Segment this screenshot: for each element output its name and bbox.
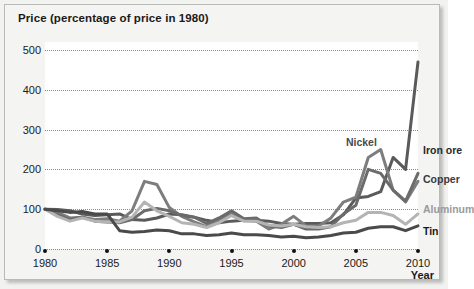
y-tick-0: 0 [1, 243, 41, 255]
y-tick-300: 300 [1, 124, 41, 136]
series-label-copper: Copper [423, 173, 460, 185]
chart-title: Price (percentage of price in 1980) [18, 12, 209, 24]
y-tick-100: 100 [1, 203, 41, 215]
x-tick-1995: 1995 [219, 257, 243, 269]
y-axis-tick-labels: 0100200300400500 [0, 42, 41, 249]
y-tick-500: 500 [1, 44, 41, 56]
x-tick-marker-1980 [43, 249, 47, 253]
series-label-nickel: Nickel [346, 136, 377, 148]
x-tick-marker-1995 [230, 249, 234, 253]
x-tick-1980: 1980 [33, 257, 57, 269]
x-tick-marker-1990 [167, 249, 171, 253]
x-tick-1990: 1990 [157, 257, 181, 269]
x-tick-2005: 2005 [344, 257, 368, 269]
x-axis: 1980198519901995200020052010 [45, 249, 418, 279]
series-label-iron-ore: Iron ore [423, 144, 462, 156]
x-axis-title: Year [411, 269, 434, 281]
x-tick-marker-2010 [416, 249, 420, 253]
series-label-tin: Tin [423, 225, 439, 237]
x-tick-1985: 1985 [95, 257, 119, 269]
x-tick-marker-1985 [105, 249, 109, 253]
series-label-aluminum: Aluminum [423, 203, 474, 215]
x-tick-2000: 2000 [281, 257, 305, 269]
y-tick-200: 200 [1, 163, 41, 175]
x-tick-marker-2000 [292, 249, 296, 253]
x-tick-2010: 2010 [406, 257, 430, 269]
x-tick-marker-2005 [354, 249, 358, 253]
y-tick-400: 400 [1, 84, 41, 96]
